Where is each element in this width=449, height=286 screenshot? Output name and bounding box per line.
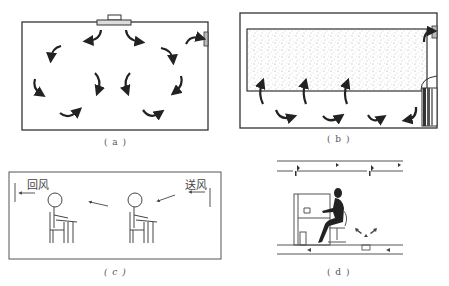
panel-c-caption: ( c ) [104,267,127,277]
panel-a: ( a ) [0,0,225,150]
seated-person-silhouette [318,188,344,243]
seated-person-2 [128,193,157,243]
floor-flow-arrows [306,228,390,252]
ceiling-plenum [277,161,403,171]
panel-b: ( b ) [225,0,449,150]
panel-a-caption: ( a ) [104,137,127,147]
panel-d-diagram [225,150,449,286]
wall-vent-icon [432,26,437,38]
panel-b-caption: ( b ) [327,134,351,144]
airflow-arrows [34,30,201,116]
floor-diffuser-icon [362,245,370,250]
panel-b-diagram [225,0,449,150]
panel-a-diagram [0,0,225,150]
supply-air-label: 送风 [185,176,207,192]
seated-person-1 [48,193,77,243]
ceiling-diffuser-icon [97,15,131,25]
raised-floor [277,245,403,254]
stratified-zone [247,29,427,91]
wall-vent-icon [204,32,208,46]
return-air-label: 回风 [27,176,49,192]
panel-c: 回风 送风 ( c ) [0,150,225,286]
panel-c-diagram [0,150,225,286]
panel-d-caption: ( d ) [327,267,351,277]
workstation [294,194,330,245]
panel-d: ( d ) [225,150,449,286]
ceiling-flow-arrows [293,163,401,176]
